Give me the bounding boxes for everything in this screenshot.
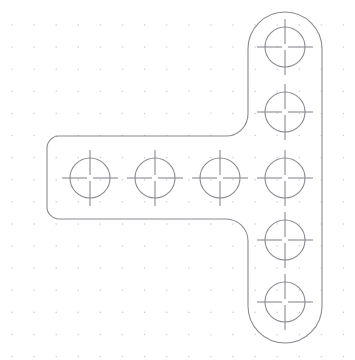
hole-h3[interactable] bbox=[192, 150, 248, 206]
hole-h4[interactable] bbox=[257, 150, 313, 206]
part-drawing-layer[interactable] bbox=[0, 0, 355, 360]
hole-h8[interactable] bbox=[257, 274, 313, 330]
hole-h7[interactable] bbox=[257, 212, 313, 268]
hole-features[interactable] bbox=[62, 19, 313, 330]
hole-h6[interactable] bbox=[257, 84, 313, 140]
hole-h1[interactable] bbox=[62, 150, 118, 206]
drawing-canvas[interactable] bbox=[0, 0, 355, 360]
hole-h2[interactable] bbox=[127, 150, 183, 206]
hole-h5[interactable] bbox=[257, 19, 313, 75]
